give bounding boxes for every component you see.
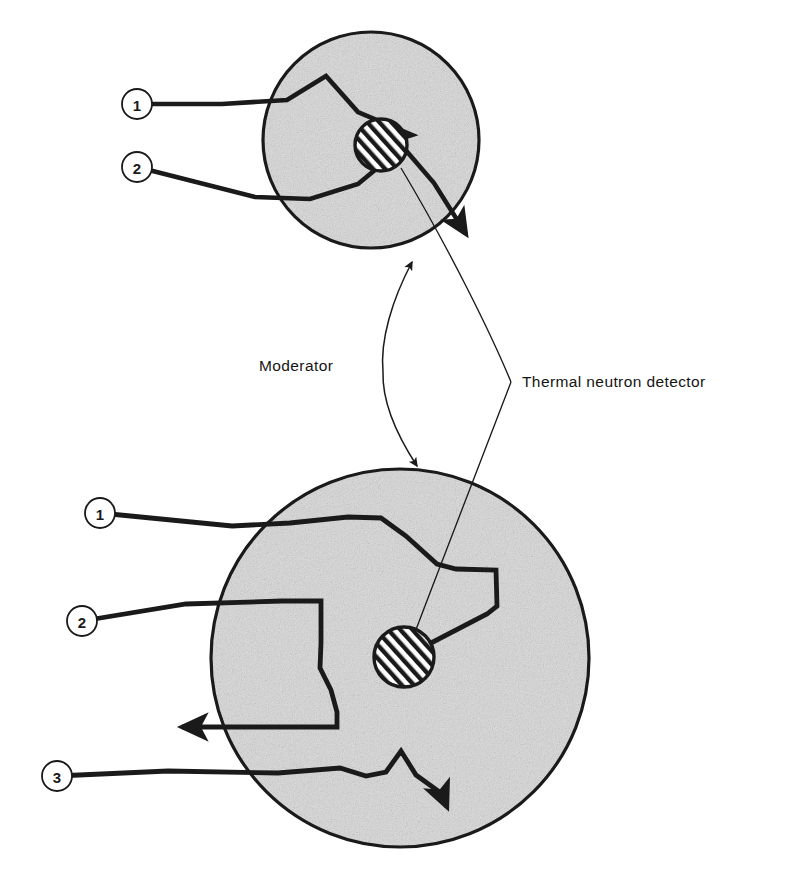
callout-bottom-3[interactable]: 3	[42, 761, 72, 791]
callout-bottom-2[interactable]: 2	[67, 606, 97, 636]
callout-top-1[interactable]: 1	[122, 89, 152, 119]
moderator-label: Moderator	[259, 357, 333, 374]
small-detector-group	[355, 119, 407, 171]
callout-bottom-3-number: 3	[53, 769, 61, 786]
figure-root: 1 2 1 2 3 Moderator Thermal neutron dete…	[0, 0, 809, 881]
callout-top-1-number: 1	[133, 97, 141, 114]
thermal-neutron-detector-label: Thermal neutron detector	[522, 373, 706, 390]
neutron-moderator-diagram: 1 2 1 2 3 Moderator Thermal neutron dete…	[0, 0, 809, 881]
callout-top-2-number: 2	[133, 160, 141, 177]
callout-bottom-1-number: 1	[96, 506, 104, 523]
large-detector-group	[374, 627, 434, 687]
callout-bottom-2-number: 2	[78, 614, 86, 631]
callout-top-2[interactable]: 2	[122, 152, 152, 182]
callout-bottom-1[interactable]: 1	[85, 498, 115, 528]
